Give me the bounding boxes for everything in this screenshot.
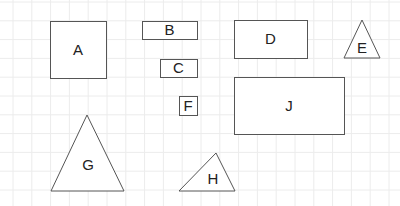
shape-label: G (82, 156, 94, 173)
shape-label: F (183, 97, 192, 114)
shape-d[interactable]: D (235, 21, 308, 59)
shape-label: C (173, 59, 184, 76)
shape-label: J (285, 97, 293, 114)
shape-b[interactable]: B (143, 21, 198, 40)
shape-label: E (357, 39, 367, 56)
shape-j[interactable]: J (235, 78, 345, 135)
diagram-canvas: ABCDEFJGH (0, 0, 400, 206)
diagram-svg: ABCDEFJGH (0, 0, 400, 206)
shape-label: H (208, 170, 219, 187)
shape-a[interactable]: A (51, 22, 107, 79)
shape-label: A (73, 41, 83, 58)
shape-h[interactable]: H (179, 153, 235, 191)
shape-label: B (164, 21, 174, 38)
shape-c[interactable]: C (161, 59, 198, 78)
shape-e[interactable]: E (344, 20, 380, 58)
triangle-outline (51, 115, 124, 191)
shape-label: D (265, 30, 276, 47)
shape-g[interactable]: G (51, 115, 124, 191)
shape-f[interactable]: F (180, 97, 198, 116)
